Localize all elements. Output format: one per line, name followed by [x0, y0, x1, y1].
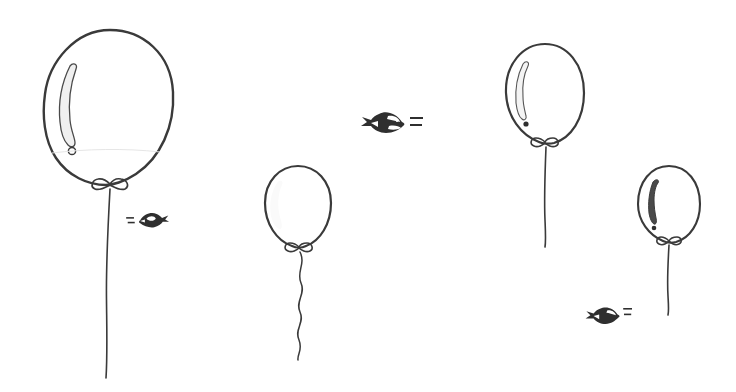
bird-2-eye [396, 120, 398, 122]
balloon-3-dot [523, 121, 528, 126]
illustration-canvas: A hand-drawn sketch of four balloons of … [0, 0, 736, 392]
balloons-and-birds-artwork [0, 0, 736, 392]
balloon-4-dot [652, 226, 657, 231]
